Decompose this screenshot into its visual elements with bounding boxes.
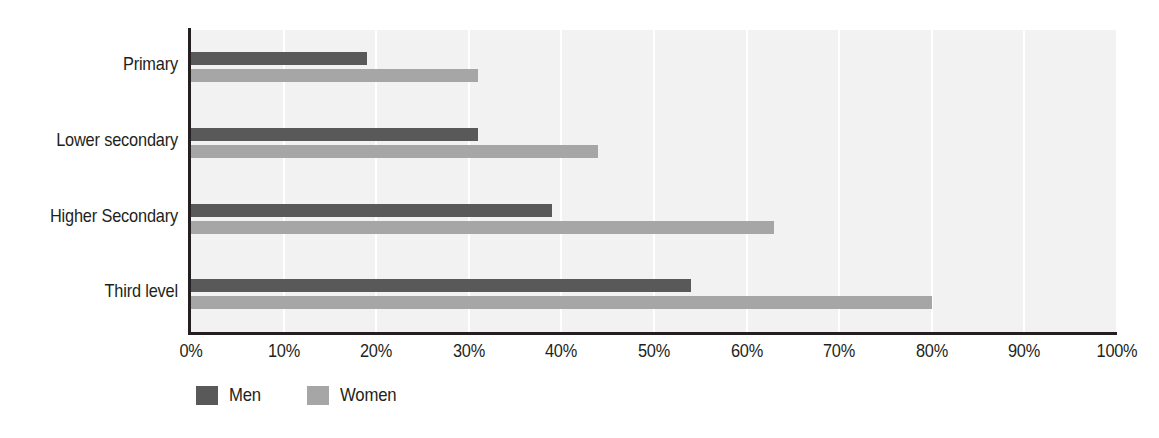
bar-chart: PrimaryLower secondaryHigher SecondaryTh… bbox=[0, 0, 1159, 438]
category-label: Primary bbox=[25, 53, 178, 75]
y-axis-line bbox=[188, 28, 191, 335]
bar-group bbox=[191, 182, 1117, 258]
bar-men-higher-secondary bbox=[191, 204, 552, 217]
bar-group bbox=[191, 30, 1117, 106]
bar-women-primary bbox=[191, 69, 478, 82]
y-axis-category-labels: PrimaryLower secondaryHigher SecondaryTh… bbox=[0, 30, 178, 333]
x-tick-label: 20% bbox=[360, 340, 392, 362]
x-tick-label: 70% bbox=[823, 340, 855, 362]
plot-area bbox=[191, 30, 1117, 333]
x-tick-label: 90% bbox=[1008, 340, 1040, 362]
bar-group bbox=[191, 257, 1117, 333]
bar-women-third-level bbox=[191, 296, 932, 309]
x-tick-label: 10% bbox=[268, 340, 300, 362]
bar-women-lower-secondary bbox=[191, 145, 598, 158]
x-tick-label: 0% bbox=[179, 340, 202, 362]
x-tick-label: 80% bbox=[916, 340, 948, 362]
bar-men-third-level bbox=[191, 279, 691, 292]
bar-women-higher-secondary bbox=[191, 221, 774, 234]
legend-label: Women bbox=[340, 384, 396, 406]
x-tick-label: 50% bbox=[638, 340, 670, 362]
category-label: Higher Secondary bbox=[25, 205, 178, 227]
x-axis-tick-labels: 0%10%20%30%40%50%60%70%80%90%100% bbox=[191, 340, 1117, 368]
x-tick-label: 30% bbox=[453, 340, 485, 362]
chart-legend: MenWomen bbox=[196, 384, 405, 406]
legend-swatch-icon bbox=[196, 386, 218, 405]
x-tick-label: 40% bbox=[545, 340, 577, 362]
x-tick-label: 60% bbox=[731, 340, 763, 362]
bar-group bbox=[191, 106, 1117, 182]
bar-men-lower-secondary bbox=[191, 128, 478, 141]
legend-swatch-icon bbox=[307, 386, 329, 405]
legend-label: Men bbox=[229, 384, 261, 406]
category-label: Lower secondary bbox=[25, 129, 178, 151]
bar-men-primary bbox=[191, 52, 367, 65]
category-label: Third level bbox=[25, 280, 178, 302]
x-axis-line bbox=[188, 332, 1117, 335]
legend-item-men[interactable]: Men bbox=[196, 384, 265, 406]
x-tick-label: 100% bbox=[1097, 340, 1138, 362]
legend-item-women[interactable]: Women bbox=[307, 384, 404, 406]
